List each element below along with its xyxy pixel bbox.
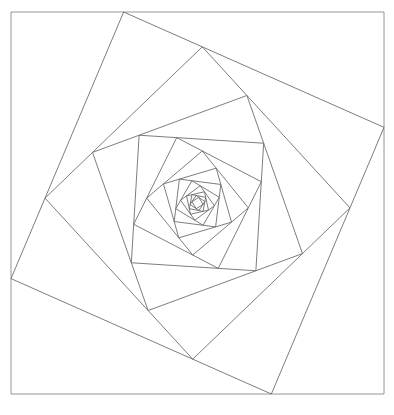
rotating-squares-figure: [0, 0, 394, 415]
canvas-background: [0, 0, 394, 415]
drawing-canvas: [0, 0, 394, 415]
